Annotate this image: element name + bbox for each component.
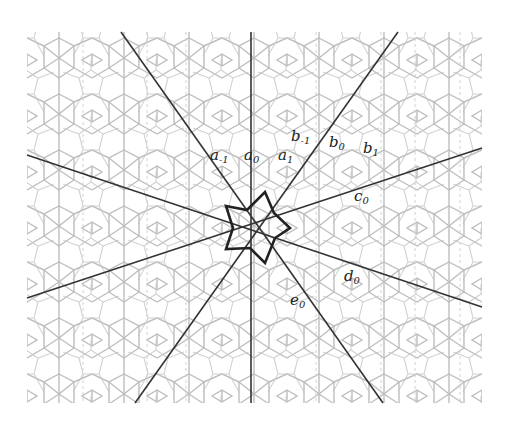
tiling-background [27, 32, 482, 403]
tiling-diagram: a-1 a0 a1 b-1 b0 b1 c0 d0 e0 [0, 0, 510, 421]
